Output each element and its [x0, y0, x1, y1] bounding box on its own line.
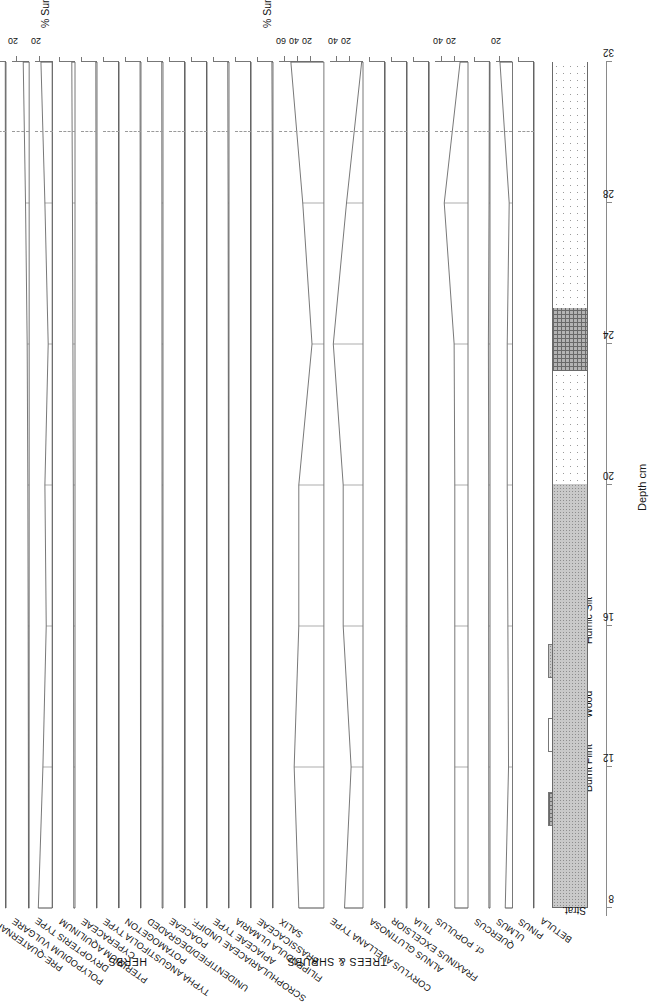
zone-boundary [12, 132, 29, 133]
depth-tick [606, 625, 612, 626]
taxon-curve [330, 62, 363, 908]
depth-tick [606, 343, 612, 344]
stratigraphy-label: Strat. [562, 905, 586, 916]
panel-value-tick-label: 40 [328, 36, 338, 46]
zone-boundary [413, 132, 429, 133]
depth-tick [606, 907, 612, 908]
zone-boundary [169, 132, 185, 133]
taxon-curve [191, 62, 207, 908]
stratigraphy-column [552, 62, 588, 908]
zone-boundary [125, 132, 141, 133]
zone-boundary [103, 132, 119, 133]
panel-value-tick-label: 20 [446, 36, 456, 46]
curve-panel [474, 62, 490, 908]
panel-value-tick-label: 20 [8, 36, 18, 46]
depth-tick-label: 16 [603, 611, 614, 622]
zone-boundary [235, 132, 251, 133]
curve-panel [391, 62, 407, 908]
curve-panel: 2040 [435, 62, 468, 908]
taxon-curve [125, 62, 141, 908]
depth-tick-label: 24 [603, 329, 614, 340]
unit-label-sum-spores: % Sum+Spores [39, 0, 51, 28]
zone-boundary [213, 132, 229, 133]
zone-boundary [0, 132, 6, 133]
stratigraphy-segment [553, 371, 587, 484]
taxon-curve [496, 62, 513, 908]
curve-panel [413, 62, 429, 908]
curve-panel [213, 62, 229, 908]
curve-panel [518, 62, 534, 908]
taxon-curve [169, 62, 185, 908]
taxon-curve [279, 62, 324, 908]
depth-tick [606, 61, 612, 62]
unit-label-sum: % Sum [261, 0, 273, 28]
taxon-curve [35, 62, 52, 908]
curve-panel: 20 [12, 62, 29, 908]
panel-value-tick-label: 60 [276, 36, 286, 46]
zone-boundary [496, 132, 513, 133]
taxon-curve [147, 62, 163, 908]
curve-panel: 204060 [279, 62, 324, 908]
curve-panel [0, 62, 6, 908]
zone-boundary [391, 132, 407, 133]
group-label: HERBS [107, 956, 146, 968]
panel-value-tick-label: 20 [302, 36, 312, 46]
zone-boundary [518, 132, 534, 133]
stratigraphy-segment [553, 61, 587, 308]
zone-boundary [474, 132, 490, 133]
curve-panel [191, 62, 207, 908]
curve-panel [235, 62, 251, 908]
depth-tick-label: 32 [603, 47, 614, 58]
taxon-curve [59, 62, 75, 908]
zone-boundary [369, 132, 385, 133]
taxon-curve [103, 62, 119, 908]
depth-tick [606, 766, 612, 767]
depth-tick [606, 484, 612, 485]
curve-panel: 2040 [330, 62, 363, 908]
zone-boundary [330, 132, 363, 133]
depth-tick-label: 8 [608, 893, 614, 904]
stratigraphy-segment [553, 484, 587, 907]
taxon-curve [257, 62, 273, 908]
taxon-curve [474, 62, 490, 908]
panel-value-tick-label: 20 [491, 36, 501, 46]
taxon-curve [12, 62, 29, 908]
taxon-curve [369, 62, 385, 908]
taxon-curve [235, 62, 251, 908]
zone-boundary [59, 132, 75, 133]
curve-panel [103, 62, 119, 908]
panel-value-tick-label: 40 [289, 36, 299, 46]
depth-tick [606, 202, 612, 203]
stratigraphy-segment [553, 308, 587, 371]
curve-panel [125, 62, 141, 908]
group-label: TREES & SHRUBS [287, 956, 387, 968]
zone-boundary [191, 132, 207, 133]
panel-value-tick-label: 40 [433, 36, 443, 46]
depth-tick-label: 28 [603, 188, 614, 199]
curve-panel [59, 62, 75, 908]
zone-boundary [279, 132, 324, 133]
curve-panel [257, 62, 273, 908]
curve-panel: 20 [35, 62, 52, 908]
depth-axis-title: Depth cm [636, 464, 648, 511]
taxon-curve [435, 62, 468, 908]
curve-panel [169, 62, 185, 908]
curve-panel [147, 62, 163, 908]
taxon-curve [413, 62, 429, 908]
depth-tick-label: 12 [603, 752, 614, 763]
zone-boundary [35, 132, 52, 133]
depth-tick-label: 20 [603, 470, 614, 481]
panel-value-tick-label: 20 [341, 36, 351, 46]
panel-value-tick-label: 20 [31, 36, 41, 46]
taxon-curve [81, 62, 97, 908]
curve-panel [81, 62, 97, 908]
taxon-curve [518, 62, 534, 908]
zone-boundary [81, 132, 97, 133]
zone-boundary [435, 132, 468, 133]
curve-panel: 20 [496, 62, 513, 908]
taxon-curve [391, 62, 407, 908]
curve-panel [369, 62, 385, 908]
